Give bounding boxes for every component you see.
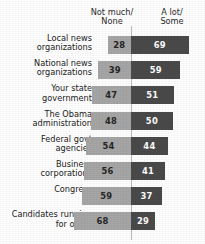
table-row: Your stategovernment4751 — [0, 86, 205, 104]
center-axis-divider — [131, 26, 132, 240]
row-label: Your stategovernment — [0, 84, 92, 103]
bar-segment-not-much-none: 39 — [98, 61, 131, 79]
bar-segment-not-much-none: 48 — [91, 112, 131, 130]
bar-segment-not-much-none: 54 — [86, 137, 131, 155]
table-row: The Obamaadministration4850 — [0, 112, 205, 130]
bar-segment-a-lot-some: 29 — [131, 212, 155, 230]
column-header-a-lot-some-line2: Some — [148, 17, 196, 26]
row-label-line2: organizations — [0, 43, 92, 52]
bar-segment-a-lot-some: 50 — [131, 112, 173, 130]
cropped-text-remnant — [0, 0, 205, 6]
row-label-line1: Your state — [51, 83, 92, 93]
row-label-line2: organizations — [0, 68, 92, 77]
table-row: Federal govtagencies5444 — [0, 137, 205, 155]
bar-segment-not-much-none: 28 — [108, 36, 131, 54]
row-label: The Obamaadministration — [0, 110, 92, 129]
table-row: National newsorganizations3959 — [0, 61, 205, 79]
row-label-line2: administration — [0, 119, 92, 128]
bar-segment-not-much-none: 59 — [82, 187, 131, 205]
column-header-a-lot-some: A lot/ Some — [148, 8, 196, 27]
bar-segment-a-lot-some: 51 — [131, 86, 174, 104]
table-row: Congress5937 — [0, 187, 205, 205]
row-label: National newsorganizations — [0, 59, 92, 78]
bar-segment-a-lot-some: 59 — [131, 61, 180, 79]
table-row: Businesscorporations5641 — [0, 162, 205, 180]
row-label-line2: government — [0, 94, 92, 103]
bar-segment-not-much-none: 56 — [84, 162, 131, 180]
row-label: Congress — [0, 185, 92, 194]
table-row: Local newsorganizations2869 — [0, 36, 205, 54]
row-label-line2: agencies — [0, 144, 92, 153]
bar-segment-a-lot-some: 69 — [131, 36, 189, 54]
bar-segment-not-much-none: 47 — [92, 86, 131, 104]
row-label: Federal govtagencies — [0, 135, 92, 154]
bar-segment-a-lot-some: 37 — [131, 187, 162, 205]
table-row: Candidates runningfor office6829 — [0, 212, 205, 230]
row-label-line2: corporations — [0, 169, 92, 178]
row-label: Businesscorporations — [0, 160, 92, 179]
bar-segment-not-much-none: 68 — [74, 212, 131, 230]
bar-segment-a-lot-some: 41 — [131, 162, 165, 180]
bar-segment-a-lot-some: 44 — [131, 137, 168, 155]
column-header-not-much-none: Not much/ None — [86, 8, 138, 27]
diverging-bar-chart: Not much/ None A lot/ Some Local newsorg… — [0, 0, 205, 244]
row-label: Local newsorganizations — [0, 34, 92, 53]
